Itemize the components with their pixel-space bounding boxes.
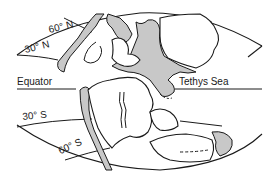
equator-label: Equator — [17, 77, 52, 87]
tethys-sea-label: Tethys Sea — [179, 77, 228, 87]
paleogeographic-map — [0, 0, 275, 179]
